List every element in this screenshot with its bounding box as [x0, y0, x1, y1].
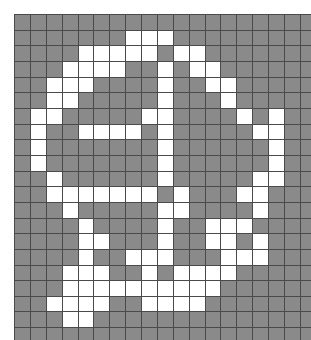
pixel-cell[interactable]: [78, 328, 94, 340]
pixel-cell[interactable]: [189, 312, 205, 328]
pixel-cell[interactable]: [30, 140, 46, 156]
pixel-cell[interactable]: [126, 140, 142, 156]
pixel-cell[interactable]: [126, 46, 142, 62]
pixel-cell[interactable]: [300, 218, 311, 234]
pixel-cell[interactable]: [15, 202, 31, 218]
pixel-cell[interactable]: [221, 281, 237, 297]
pixel-cell[interactable]: [157, 218, 173, 234]
pixel-cell[interactable]: [62, 202, 78, 218]
pixel-cell[interactable]: [189, 155, 205, 171]
pixel-cell[interactable]: [142, 30, 158, 46]
pixel-cell[interactable]: [110, 265, 126, 281]
pixel-cell[interactable]: [62, 312, 78, 328]
pixel-cell[interactable]: [173, 124, 189, 140]
pixel-cell[interactable]: [237, 155, 253, 171]
pixel-cell[interactable]: [300, 108, 311, 124]
pixel-cell[interactable]: [237, 187, 253, 203]
pixel-cell[interactable]: [94, 30, 110, 46]
pixel-cell[interactable]: [78, 234, 94, 250]
pixel-cell[interactable]: [253, 30, 269, 46]
pixel-cell[interactable]: [46, 171, 62, 187]
pixel-cell[interactable]: [205, 46, 221, 62]
pixel-cell[interactable]: [205, 296, 221, 312]
pixel-cell[interactable]: [142, 124, 158, 140]
pixel-cell[interactable]: [15, 77, 31, 93]
pixel-cell[interactable]: [284, 15, 300, 31]
pixel-cell[interactable]: [237, 249, 253, 265]
pixel-cell[interactable]: [173, 202, 189, 218]
pixel-cell[interactable]: [157, 296, 173, 312]
pixel-cell[interactable]: [221, 202, 237, 218]
pixel-cell[interactable]: [30, 312, 46, 328]
pixel-cell[interactable]: [269, 15, 285, 31]
pixel-cell[interactable]: [237, 30, 253, 46]
pixel-cell[interactable]: [46, 218, 62, 234]
pixel-cell[interactable]: [46, 15, 62, 31]
pixel-cell[interactable]: [126, 61, 142, 77]
pixel-cell[interactable]: [15, 249, 31, 265]
pixel-cell[interactable]: [284, 61, 300, 77]
pixel-cell[interactable]: [110, 61, 126, 77]
pixel-cell[interactable]: [30, 61, 46, 77]
pixel-cell[interactable]: [15, 281, 31, 297]
pixel-cell[interactable]: [62, 155, 78, 171]
pixel-cell[interactable]: [46, 140, 62, 156]
pixel-cell[interactable]: [157, 281, 173, 297]
pixel-cell[interactable]: [269, 296, 285, 312]
pixel-cell[interactable]: [15, 93, 31, 109]
pixel-cell[interactable]: [30, 155, 46, 171]
pixel-cell[interactable]: [284, 312, 300, 328]
pixel-cell[interactable]: [300, 30, 311, 46]
pixel-cell[interactable]: [62, 140, 78, 156]
pixel-cell[interactable]: [78, 249, 94, 265]
pixel-cell[interactable]: [126, 30, 142, 46]
pixel-cell[interactable]: [142, 328, 158, 340]
pixel-cell[interactable]: [173, 234, 189, 250]
pixel-cell[interactable]: [30, 296, 46, 312]
pixel-cell[interactable]: [157, 93, 173, 109]
pixel-cell[interactable]: [110, 296, 126, 312]
pixel-cell[interactable]: [284, 296, 300, 312]
pixel-cell[interactable]: [157, 15, 173, 31]
pixel-cell[interactable]: [221, 155, 237, 171]
pixel-cell[interactable]: [30, 234, 46, 250]
pixel-cell[interactable]: [15, 140, 31, 156]
pixel-cell[interactable]: [126, 265, 142, 281]
pixel-cell[interactable]: [221, 265, 237, 281]
pixel-cell[interactable]: [110, 281, 126, 297]
pixel-cell[interactable]: [46, 281, 62, 297]
pixel-cell[interactable]: [110, 93, 126, 109]
pixel-cell[interactable]: [142, 108, 158, 124]
pixel-cell[interactable]: [46, 155, 62, 171]
pixel-cell[interactable]: [221, 296, 237, 312]
pixel-cell[interactable]: [205, 249, 221, 265]
pixel-cell[interactable]: [62, 93, 78, 109]
pixel-cell[interactable]: [15, 265, 31, 281]
pixel-cell[interactable]: [15, 296, 31, 312]
pixel-cell[interactable]: [30, 124, 46, 140]
pixel-cell[interactable]: [94, 234, 110, 250]
pixel-cell[interactable]: [15, 61, 31, 77]
pixel-cell[interactable]: [300, 124, 311, 140]
pixel-cell[interactable]: [173, 312, 189, 328]
pixel-cell[interactable]: [205, 30, 221, 46]
pixel-cell[interactable]: [284, 218, 300, 234]
pixel-cell[interactable]: [284, 187, 300, 203]
pixel-cell[interactable]: [253, 249, 269, 265]
pixel-cell[interactable]: [253, 312, 269, 328]
pixel-cell[interactable]: [221, 77, 237, 93]
pixel-cell[interactable]: [300, 77, 311, 93]
pixel-cell[interactable]: [253, 77, 269, 93]
pixel-cell[interactable]: [205, 218, 221, 234]
pixel-cell[interactable]: [253, 93, 269, 109]
pixel-cell[interactable]: [253, 171, 269, 187]
pixel-cell[interactable]: [78, 281, 94, 297]
pixel-cell[interactable]: [300, 265, 311, 281]
pixel-cell[interactable]: [142, 265, 158, 281]
pixel-cell[interactable]: [253, 296, 269, 312]
pixel-cell[interactable]: [221, 30, 237, 46]
pixel-cell[interactable]: [157, 124, 173, 140]
pixel-cell[interactable]: [284, 328, 300, 340]
pixel-cell[interactable]: [110, 108, 126, 124]
pixel-cell[interactable]: [30, 30, 46, 46]
